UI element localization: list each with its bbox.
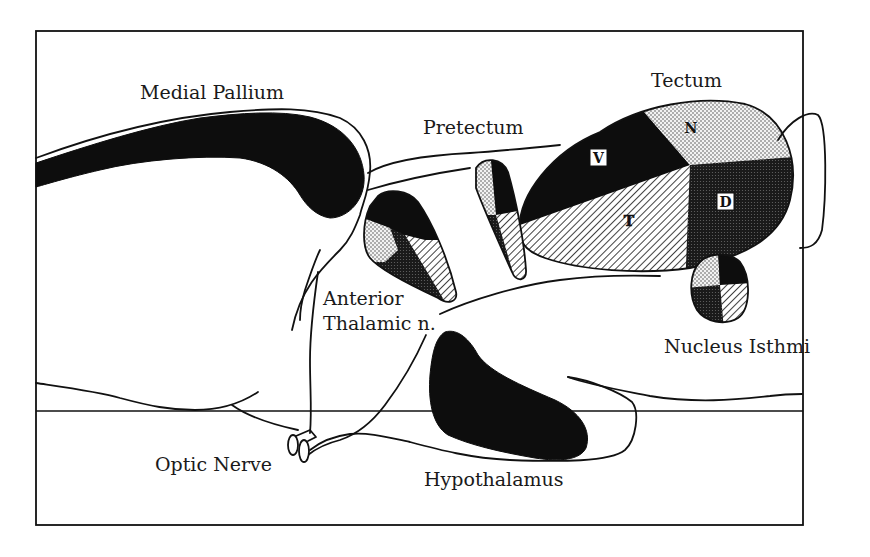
- quadrant-d-label: D: [719, 194, 731, 210]
- preoptic-outline: [310, 272, 318, 433]
- quadrant-n-label: N: [685, 120, 698, 136]
- quadrant-v-label: V: [592, 150, 605, 166]
- quadrant-t-label: T: [624, 213, 635, 229]
- label-anterior-thalamic-line1: Anterior: [322, 287, 404, 309]
- brain-diagram: V N D T: [0, 0, 870, 557]
- midbrain-outline: [440, 276, 660, 314]
- tectum: V N D T: [500, 90, 820, 290]
- label-medial-pallium: Medial Pallium: [140, 81, 284, 103]
- label-optic-nerve: Optic Nerve: [155, 453, 272, 475]
- label-pretectum: Pretectum: [423, 116, 524, 138]
- label-hypothalamus: Hypothalamus: [424, 468, 564, 490]
- label-tectum: Tectum: [651, 69, 722, 91]
- hypothalamus-region: [430, 331, 588, 460]
- medial-pallium-region: [36, 113, 364, 218]
- optic-tract-line: [232, 405, 298, 430]
- ventral-outline: [568, 377, 802, 400]
- olfactory-ventral-outline: [36, 383, 258, 410]
- label-anterior-thalamic-line2: Thalamic n.: [323, 312, 436, 334]
- label-nucleus-isthmi: Nucleus Isthmi: [664, 335, 810, 357]
- optic-nerve-stumps: [288, 430, 316, 462]
- hypothalamic-boundary: [308, 335, 426, 455]
- pretectum-outline-lower: [368, 168, 470, 190]
